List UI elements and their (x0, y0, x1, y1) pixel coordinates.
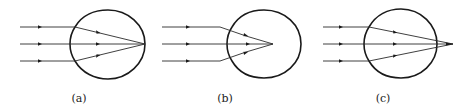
panel-label-b: (b) (217, 92, 233, 105)
eye-outline-a (70, 10, 145, 79)
arrow-icon (393, 54, 397, 57)
ray-a-bottom-refracted (75, 44, 145, 61)
panel-b: (b) (162, 10, 301, 105)
panel-label-a: (a) (71, 92, 86, 105)
ray-b-bottom-refracted (246, 44, 273, 52)
ray-c-top-refracted (369, 27, 453, 44)
arrow-icon (339, 25, 343, 28)
panel-a: (a) (20, 10, 145, 105)
eye-outline-c (364, 9, 437, 78)
arrow-icon (244, 33, 249, 36)
panel-c: (c) (323, 9, 453, 105)
arrow-icon (186, 25, 190, 28)
arrow-icon (186, 42, 190, 45)
arrow-icon (38, 59, 42, 62)
arrow-icon (186, 59, 190, 62)
arrow-icon (339, 59, 343, 62)
ray-b-top (162, 27, 246, 36)
arrow-icon (38, 42, 42, 45)
ray-b-top-refracted (246, 36, 273, 44)
arrow-icon (38, 25, 42, 28)
arrow-icon (393, 30, 397, 33)
ray-c-bottom-refracted (369, 44, 453, 61)
ray-b-bottom (162, 52, 246, 61)
arrow-icon (96, 42, 100, 45)
eye-diagrams-figure: (a) (b) (0, 0, 470, 108)
ray-a-top-refracted (75, 27, 145, 44)
arrow-icon (246, 42, 250, 45)
arrow-icon (339, 42, 343, 45)
arrow-icon (244, 52, 249, 55)
panel-label-c: (c) (376, 92, 391, 105)
arrow-icon (393, 42, 397, 45)
